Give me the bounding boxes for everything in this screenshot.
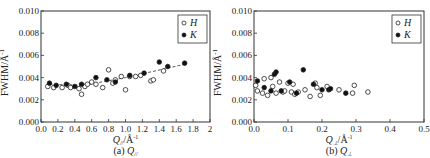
h-data-point	[265, 93, 270, 98]
legend-k-marker-icon	[182, 33, 186, 37]
k-data-point	[73, 84, 78, 89]
h-data-point	[133, 74, 138, 79]
k-data-point	[105, 78, 110, 83]
h-data-point	[123, 88, 128, 93]
x-tick-label: 1.0	[120, 124, 132, 134]
k-data-point	[262, 85, 267, 90]
h-data-point	[151, 78, 156, 83]
h-data-point	[274, 91, 279, 96]
x-tick-label: 1.6	[171, 124, 183, 134]
x-tick-label: 2	[208, 124, 213, 134]
k-data-point	[79, 82, 84, 87]
chart-a: 0.0000.0020.0040.0060.0080.0100.00.20.40…	[0, 6, 212, 157]
k-data-point	[127, 73, 132, 78]
x-tick-label: 0.4	[384, 124, 396, 134]
k-data-point	[279, 89, 284, 94]
k-data-point	[274, 70, 279, 75]
legend-h-marker-icon	[396, 21, 400, 25]
k-data-point	[94, 75, 99, 80]
legend-k-label: K	[403, 29, 412, 40]
x-tick-label: 1.8	[187, 124, 199, 134]
h-data-point	[337, 88, 342, 93]
y-tick-label: 0.010	[19, 6, 40, 16]
h-data-point	[94, 82, 99, 87]
h-data-point	[60, 85, 65, 90]
y-tick-label: 0.004	[232, 73, 253, 83]
k-data-point	[344, 91, 349, 96]
x-tick-label: 0.0	[248, 124, 260, 134]
y-tick-label: 0.002	[232, 95, 252, 105]
y-tick-label: 0.004	[19, 73, 40, 83]
k-data-point	[320, 88, 325, 93]
h-data-point	[100, 85, 105, 90]
k-data-point	[165, 64, 170, 69]
k-data-point	[113, 80, 118, 85]
legend-k-label: K	[189, 29, 198, 40]
k-data-point	[269, 89, 274, 94]
h-data-point	[119, 74, 124, 79]
h-data-point	[260, 91, 265, 96]
y-tick-label: 0.002	[19, 95, 39, 105]
k-data-point	[328, 86, 333, 91]
k-data-point	[54, 83, 59, 88]
h-data-point	[255, 89, 260, 94]
x-tick-label: 0.8	[103, 124, 115, 134]
figure: 0.0000.0020.0040.0060.0080.0100.00.20.40…	[0, 0, 430, 158]
k-data-point	[294, 91, 299, 96]
k-data-point	[311, 82, 316, 87]
y-tick-label: 0.010	[232, 6, 253, 16]
h-data-point	[106, 68, 111, 73]
k-data-point	[142, 71, 147, 76]
h-data-point	[308, 94, 313, 99]
legend: HK	[392, 15, 421, 43]
h-data-point	[79, 92, 84, 97]
y-tick-label: 0.008	[232, 28, 253, 38]
k-data-point	[301, 68, 306, 73]
k-data-point	[64, 82, 69, 87]
h-data-point	[318, 93, 323, 98]
k-data-point	[157, 60, 162, 65]
h-data-point	[253, 83, 258, 88]
y-axis-label: FWHM/Å-1	[0, 49, 10, 96]
x-tick-label: 0.4	[69, 124, 81, 134]
x-tick-label: 0.2	[52, 124, 63, 134]
x-tick-label: 0.3	[350, 124, 362, 134]
legend: HK	[178, 15, 207, 43]
x-tick-label: 1.4	[154, 124, 166, 134]
y-tick-label: 0.006	[19, 50, 40, 60]
h-data-point	[303, 88, 308, 93]
x-tick-label: 1.2	[137, 124, 148, 134]
h-data-point	[270, 84, 275, 89]
k-data-point	[255, 79, 260, 84]
h-data-point	[262, 76, 267, 81]
subfigure-caption: (b) Q⊥	[326, 145, 352, 157]
legend-h-label: H	[189, 17, 198, 28]
h-data-point	[366, 90, 371, 95]
y-tick-label: 0.008	[19, 28, 40, 38]
x-tick-label: 0.6	[86, 124, 98, 134]
x-tick-label: 0.0	[35, 124, 47, 134]
h-data-point	[350, 91, 355, 96]
x-tick-label: 0.5	[418, 124, 430, 134]
subfigure-caption: (a) Q//	[113, 145, 139, 157]
k-data-point	[182, 61, 187, 66]
k-data-point	[287, 80, 292, 85]
k-data-point	[47, 81, 52, 86]
chart-b: 0.0000.0020.0040.0060.0080.0100.00.10.20…	[211, 6, 430, 157]
h-data-point	[161, 69, 166, 74]
y-tick-label: 0.006	[232, 50, 253, 60]
legend-k-marker-icon	[396, 33, 400, 37]
legend-h-label: H	[403, 17, 412, 28]
x-tick-label: 0.2	[316, 124, 327, 134]
y-axis-label: FWHM/Å-1	[211, 49, 223, 96]
h-data-point	[277, 80, 282, 85]
h-data-point	[352, 83, 357, 88]
legend-h-marker-icon	[182, 21, 186, 25]
x-tick-label: 0.1	[282, 124, 293, 134]
